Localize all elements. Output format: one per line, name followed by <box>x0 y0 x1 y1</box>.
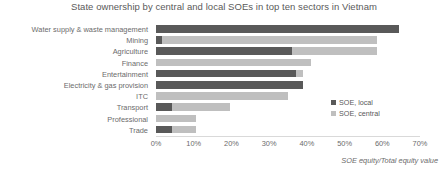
x-axis-line <box>156 136 420 137</box>
x-axis-tick: 10% <box>186 139 201 148</box>
bar-segment <box>156 126 172 134</box>
bar-segment <box>156 103 172 111</box>
bar-row <box>156 125 420 136</box>
bar-segment <box>172 126 196 134</box>
y-axis-category-labels: Water supply & waste managementMiningAgr… <box>0 24 152 136</box>
x-axis-tick: 60% <box>375 139 390 148</box>
bar-segment <box>156 92 288 100</box>
y-axis-label: Transport <box>117 102 148 113</box>
bar-row <box>156 35 420 46</box>
x-axis-tick: 0% <box>151 139 162 148</box>
chart-container: State ownership by central and local SOE… <box>0 0 448 171</box>
bar-segment <box>156 81 303 89</box>
x-axis-tick: 40% <box>299 139 314 148</box>
legend-item: SOE, central <box>331 108 431 118</box>
bar-segment <box>156 59 311 67</box>
legend-label: SOE, local <box>339 98 373 107</box>
y-axis-label: Finance <box>122 58 148 69</box>
x-axis-tick: 70% <box>413 139 428 148</box>
y-axis-label: Entertainment <box>102 69 148 80</box>
bar-row <box>156 80 420 91</box>
bar-segment <box>156 70 296 78</box>
y-axis-label: Mining <box>126 35 148 46</box>
y-axis-label: Electricity & gas provision <box>64 80 148 91</box>
x-axis-tick: 30% <box>262 139 277 148</box>
bar-row <box>156 24 420 35</box>
y-axis-label: Water supply & waste management <box>32 24 148 35</box>
bar-segment <box>162 36 377 44</box>
bar-segment <box>156 47 292 55</box>
x-axis-title: SOE equity/Total equity value <box>341 156 438 165</box>
y-axis-label: Trade <box>129 125 148 136</box>
chart-legend: SOE, localSOE, central <box>331 97 431 119</box>
x-axis-tick: 50% <box>337 139 352 148</box>
y-axis-label: Professional <box>107 114 148 125</box>
bar-segment <box>292 47 377 55</box>
bar-segment <box>296 70 304 78</box>
bar-row <box>156 46 420 57</box>
y-axis-label: ITC <box>136 91 148 102</box>
legend-swatch-central <box>331 111 336 116</box>
bar-segment <box>156 25 399 33</box>
chart-title: State ownership by central and local SOE… <box>0 1 448 12</box>
bar-segment <box>172 103 230 111</box>
x-axis-tick-labels: 0%10%20%30%40%50%60%70% <box>156 139 420 151</box>
bar-row <box>156 58 420 69</box>
legend-label: SOE, central <box>339 109 380 118</box>
legend-swatch-local <box>331 100 336 105</box>
bar-rows <box>156 24 420 136</box>
legend-item: SOE, local <box>331 97 431 107</box>
bar-row <box>156 69 420 80</box>
plot-area <box>156 24 420 136</box>
y-axis-label: Agriculture <box>113 46 148 57</box>
bar-segment <box>156 115 196 123</box>
x-axis-tick: 20% <box>224 139 239 148</box>
